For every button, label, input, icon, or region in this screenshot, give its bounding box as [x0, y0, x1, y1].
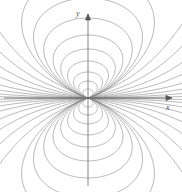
- field-line-fan: [0, 16, 88, 99]
- field-line-fan: [0, 98, 88, 181]
- field-line-canvas: [0, 0, 182, 192]
- x-axis-arrowhead: [166, 95, 172, 100]
- x-axis-label: x: [166, 104, 170, 112]
- y-axis-arrowhead: [85, 14, 90, 20]
- field-line-group: [0, 0, 182, 192]
- dipole-field-figure: y x: [0, 0, 182, 192]
- y-axis-label: y: [76, 10, 80, 18]
